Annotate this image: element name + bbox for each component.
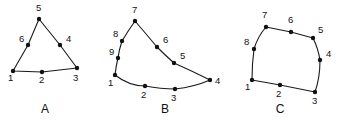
vertex-point <box>311 36 315 40</box>
vertex-label: 3 <box>171 92 176 103</box>
vertex-label: 8 <box>244 36 249 47</box>
vertex-point <box>264 25 268 29</box>
vertex-label: 2 <box>39 74 44 85</box>
vertex-label: 3 <box>73 72 78 83</box>
vertex-point <box>58 43 62 47</box>
vertex-label: 1 <box>245 81 250 92</box>
vertex-point <box>143 84 147 88</box>
vertex-point <box>120 39 124 43</box>
vertex-point <box>116 56 120 60</box>
vertex-label: 1 <box>108 77 113 88</box>
vertex-point <box>26 43 30 47</box>
shape-caption: A <box>41 102 49 116</box>
vertex-point <box>172 61 176 65</box>
shape-group-a: 123456A <box>8 2 79 116</box>
vertex-label: 6 <box>288 14 293 25</box>
vertex-label: 9 <box>109 46 114 57</box>
vertex-label: 6 <box>19 33 24 44</box>
polygon-figures-svg: 123456A123456789B12345678C <box>0 0 344 123</box>
shape-outline-a <box>13 19 77 72</box>
vertex-point <box>289 30 293 34</box>
shape-group-c: 12345678C <box>244 9 331 116</box>
vertex-point <box>37 17 41 21</box>
vertex-point <box>208 78 212 82</box>
vertex-point <box>133 19 137 23</box>
vertex-label: 4 <box>215 75 220 86</box>
vertex-point <box>75 66 79 70</box>
vertex-point <box>278 83 282 87</box>
vertex-label: 5 <box>318 24 323 35</box>
vertex-label: 5 <box>180 50 185 61</box>
vertex-point <box>113 73 117 77</box>
vertex-label: 4 <box>66 33 71 44</box>
vertex-label: 4 <box>326 48 331 59</box>
shape-group-b: 123456789B <box>108 4 220 116</box>
vertex-label: 7 <box>132 4 137 15</box>
vertex-label: 2 <box>276 88 281 99</box>
figure-panel: 123456A123456789B12345678C <box>0 0 344 123</box>
shape-outline-b <box>115 21 210 89</box>
vertex-label: 6 <box>163 34 168 45</box>
vertex-point <box>252 47 256 51</box>
vertex-label: 7 <box>262 9 267 20</box>
vertex-label: 1 <box>8 72 13 83</box>
vertex-label: 3 <box>312 95 317 106</box>
vertex-label: 2 <box>141 89 146 100</box>
vertex-point <box>318 58 322 62</box>
vertex-point <box>173 87 177 91</box>
shape-outline-c <box>252 27 320 92</box>
vertex-point <box>155 45 159 49</box>
vertex-label: 8 <box>113 28 118 39</box>
vertex-point <box>313 90 317 94</box>
shape-caption: B <box>161 102 169 116</box>
vertex-point <box>250 78 254 82</box>
vertex-label: 5 <box>36 2 41 13</box>
shape-caption: C <box>276 102 285 116</box>
